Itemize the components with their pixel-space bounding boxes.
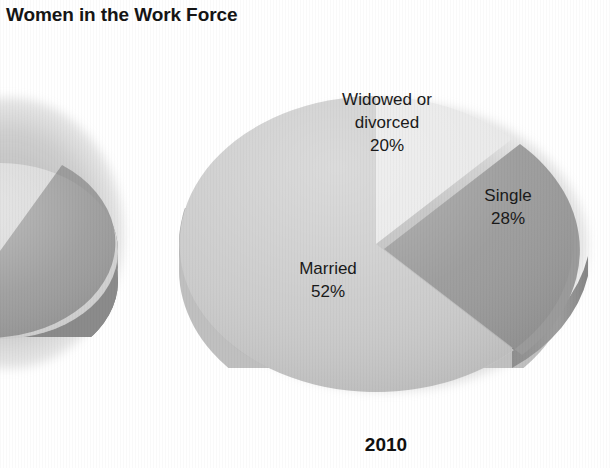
pie-caption-year: 2010 bbox=[316, 434, 456, 456]
pie-top-face bbox=[0, 55, 130, 400]
pie-chart-left-partial bbox=[0, 55, 130, 400]
pie-chart-2010 bbox=[176, 48, 596, 418]
page-title: Women in the Work Force bbox=[6, 4, 237, 26]
pie-top-face bbox=[176, 48, 596, 418]
